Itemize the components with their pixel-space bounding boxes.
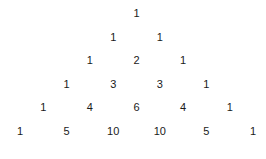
triangle-entry: 1 (40, 101, 46, 113)
triangle-entry: 3 (157, 78, 163, 90)
triangle-entry: 3 (110, 78, 116, 90)
triangle-entry: 6 (133, 101, 139, 113)
figure-caption: (a) (129, 157, 142, 159)
triangle-entry: 1 (110, 31, 116, 43)
triangle-entry: 2 (133, 54, 139, 66)
triangle-entry: 1 (203, 78, 209, 90)
triangle-entry: 1 (133, 7, 139, 19)
triangle-entry: 1 (227, 101, 233, 113)
triangle-entry: 1 (17, 125, 23, 137)
triangle-entry: 4 (180, 101, 186, 113)
triangle-entry: 1 (250, 125, 256, 137)
triangle-entry: 1 (157, 31, 163, 43)
triangle-entry: 4 (87, 101, 93, 113)
triangle-entry: 10 (107, 125, 119, 137)
triangle-entry: 1 (64, 78, 70, 90)
triangle-entry: 5 (203, 125, 209, 137)
triangle-entry: 1 (180, 54, 186, 66)
triangle-entry: 5 (64, 125, 70, 137)
triangle-entry: 1 (87, 54, 93, 66)
triangle-entry: 10 (154, 125, 166, 137)
